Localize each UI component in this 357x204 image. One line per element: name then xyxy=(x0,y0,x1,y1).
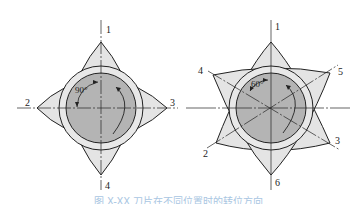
left-label-2: 2 xyxy=(25,97,30,108)
right-label-1: 1 xyxy=(275,21,280,32)
right-label-6: 6 xyxy=(275,177,280,188)
right-label-3: 3 xyxy=(335,135,340,146)
left-label-3: 3 xyxy=(170,97,175,108)
figure-caption: 图 X-XX 刀片在不同位置时的转位方向 xyxy=(0,193,357,204)
right-label-4: 4 xyxy=(198,65,203,76)
right-label-5: 5 xyxy=(338,66,343,77)
right-label-2: 2 xyxy=(203,148,208,159)
right-angle-label: 60° xyxy=(251,79,264,89)
left-label-1: 1 xyxy=(106,24,111,35)
left-figure: 90° 1 2 3 4 xyxy=(17,20,178,191)
diagram-canvas: 90° 1 2 3 4 60° 1 2 3 4 5 6 xyxy=(0,0,357,204)
left-angle-label: 90° xyxy=(75,85,88,95)
right-figure: 60° 1 2 3 4 5 6 xyxy=(186,20,350,190)
left-label-4: 4 xyxy=(105,180,110,191)
